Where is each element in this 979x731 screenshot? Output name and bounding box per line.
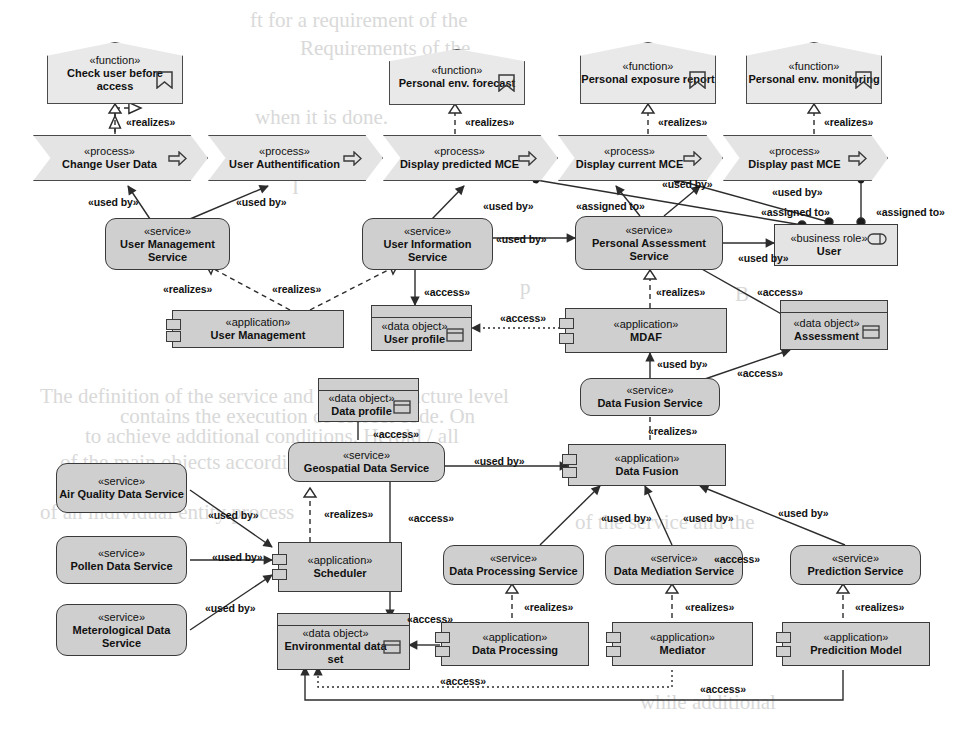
business-process-change-user-data[interactable]: «process» Change User Data	[33, 135, 208, 181]
edge-label-r5: «realizes»	[163, 283, 212, 295]
business-role-user[interactable]: «business role» User	[774, 224, 898, 266]
stereotype-label: «process»	[84, 145, 135, 158]
component-tab-icon	[559, 333, 574, 344]
edge-label-u12: «used by»	[683, 512, 733, 524]
service-data-fusion-service[interactable]: «service» Data Fusion Service	[580, 378, 720, 416]
node-name: Personal Assessment Service	[576, 237, 722, 263]
data-object-header-band	[781, 301, 887, 313]
component-tab-icon	[606, 632, 621, 643]
data-object-assessment[interactable]: «data object» Assessment	[780, 300, 888, 350]
edge-label-r8: «realizes»	[648, 425, 697, 437]
edge-label-u14: «used by»	[212, 551, 262, 563]
node-name: Environmental data set	[278, 640, 393, 666]
edge-label-ac8: «access»	[407, 613, 453, 625]
business-process-display-past-mce[interactable]: «process» Display past MCE	[723, 135, 888, 181]
node-name: User Information Service	[363, 238, 492, 264]
business-function-check-user-before-access[interactable]: «function» Check user before access	[47, 42, 183, 104]
stereotype-label: «application»	[650, 631, 715, 644]
background-text-5: B	[735, 282, 749, 307]
node-name: Personal env. forecast	[399, 77, 516, 90]
service-data-processing-service[interactable]: «service» Data Processing Service	[443, 545, 584, 585]
node-name: User	[817, 245, 841, 258]
stereotype-label: «service»	[650, 552, 697, 565]
stereotype-label: «process»	[434, 145, 485, 158]
node-name: Display past MCE	[748, 158, 840, 171]
business-process-display-predicted-mce[interactable]: «process» Display predicted MCE	[383, 135, 558, 181]
stereotype-label: «function»	[432, 64, 483, 77]
application-scheduler[interactable]: «application» Scheduler	[278, 542, 402, 592]
service-geospatial-data-service[interactable]: «service» Geospatial Data Service	[288, 442, 445, 482]
business-function-personal-env-forecast[interactable]: «function» Personal env. forecast	[389, 49, 525, 105]
stereotype-label: «service»	[343, 449, 390, 462]
service-air-quality-data-service[interactable]: «service» Air Quality Data Service	[56, 463, 187, 513]
data-object-environmental-data-set[interactable]: «data object» Environmental data set	[277, 613, 410, 670]
stereotype-label: «data object»	[381, 320, 447, 333]
component-tab-icon	[166, 319, 181, 330]
stereotype-label: «service»	[490, 552, 537, 565]
node-name: Data Mediation Service	[614, 565, 734, 578]
data-object-data-profile[interactable]: «data object» Data profile	[318, 378, 419, 422]
service-data-mediation-service[interactable]: «service» Data Mediation Service	[605, 545, 743, 585]
business-process-display-current-mce[interactable]: «process» Display current MCE	[558, 135, 723, 181]
data-object-icon	[446, 328, 464, 342]
edge-label-u10: «used by»	[208, 509, 258, 521]
node-name: User Management Service	[106, 238, 229, 264]
edge-label-u5: «used by»	[772, 186, 822, 198]
stereotype-label: «application»	[614, 318, 679, 331]
service-pollen-data-service[interactable]: «service» Pollen Data Service	[56, 536, 187, 584]
edge-label-a3: «assigned to»	[876, 206, 945, 218]
stereotype-label: «service»	[832, 552, 879, 565]
component-tab-icon	[562, 467, 577, 478]
process-arrow-icon	[683, 151, 702, 166]
service-prediction-service[interactable]: «service» Prediction Service	[790, 545, 921, 585]
business-process-user-authentification[interactable]: «process» User Authentification	[208, 135, 383, 181]
stereotype-label: «application»	[824, 631, 889, 644]
node-name: Meterological Data Service	[57, 624, 186, 650]
edge-label-ac1: «access»	[424, 286, 470, 298]
edge-label-ac10: «access»	[700, 683, 746, 695]
stereotype-label: «application»	[308, 554, 373, 567]
stereotype-label: «application»	[483, 631, 548, 644]
edge-label-r10: «realizes»	[524, 601, 573, 613]
component-tab-icon	[435, 632, 450, 643]
node-name: Geospatial Data Service	[304, 462, 429, 475]
stereotype-label: «data object»	[793, 317, 859, 330]
node-name: Display predicted MCE	[400, 158, 519, 171]
data-object-user-profile[interactable]: «data object» User profile	[371, 305, 472, 351]
process-arrow-icon	[518, 151, 537, 166]
node-name: Data Processing Service	[449, 565, 577, 578]
service-user-management-service[interactable]: «service» User Management Service	[105, 218, 230, 270]
application-user-management[interactable]: «application» User Management	[172, 310, 344, 348]
stereotype-label: «application»	[226, 316, 291, 329]
service-meterological-data-service[interactable]: «service» Meterological Data Service	[56, 604, 187, 656]
data-object-header-band	[372, 306, 471, 318]
node-name: Personal env. monitoring	[748, 73, 879, 86]
edge-label-r7: «realizes»	[656, 286, 705, 298]
node-name: Personal exposure report	[581, 73, 714, 86]
business-role-icon	[867, 233, 887, 245]
application-predicition-model[interactable]: «application» Predicition Model	[782, 622, 930, 666]
business-function-personal-env-monitoring[interactable]: «function» Personal env. monitoring	[746, 42, 882, 104]
application-data-fusion[interactable]: «application» Data Fusion	[568, 444, 726, 486]
service-personal-assessment-service[interactable]: «service» Personal Assessment Service	[575, 216, 723, 270]
edge-label-ac3: «access»	[757, 286, 803, 298]
component-tab-icon	[272, 569, 287, 580]
process-arrow-icon	[848, 151, 867, 166]
node-name: Scheduler	[313, 567, 366, 580]
edge-label-u11: «used by»	[601, 512, 651, 524]
application-data-processing[interactable]: «application» Data Processing	[441, 622, 589, 666]
service-user-information-service[interactable]: «service» User Information Service	[362, 218, 493, 270]
edge-label-r4: «realizes»	[824, 116, 873, 128]
stereotype-label: «function»	[623, 60, 674, 73]
application-mdaf[interactable]: «application» MDAF	[565, 308, 727, 353]
background-text-7: contains the execution of correct code. …	[120, 404, 475, 429]
component-tab-icon	[562, 454, 577, 465]
edge-label-ac6: «access»	[408, 512, 454, 524]
archimate-diagram: ft for a requirement of theRequirements …	[0, 0, 979, 731]
business-function-personal-exposure-report[interactable]: «function» Personal exposure report	[580, 42, 716, 104]
stereotype-label: «function»	[789, 60, 840, 73]
stereotype-label: «process»	[769, 145, 820, 158]
stereotype-label: «data object»	[302, 627, 368, 640]
application-mediator[interactable]: «application» Mediator	[612, 622, 753, 666]
edge-label-u1: «used by»	[88, 196, 138, 208]
